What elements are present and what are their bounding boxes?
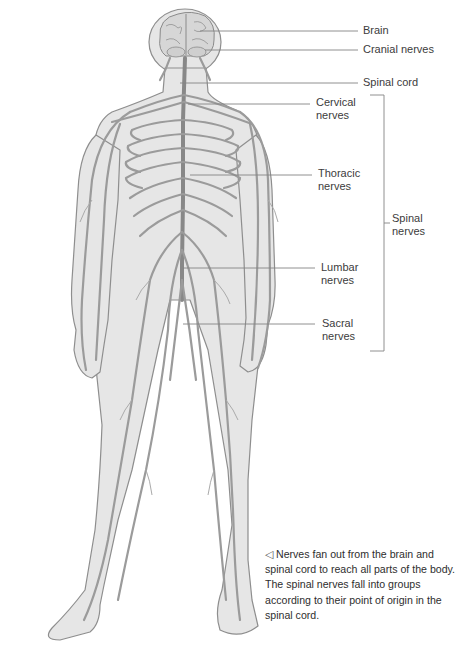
label-line2: nerves bbox=[321, 274, 358, 287]
label-line2: nerves bbox=[318, 180, 360, 193]
label-line2: nerves bbox=[322, 330, 355, 343]
label-lumbar-nerves: Lumbar nerves bbox=[321, 261, 358, 286]
caption-text: Nerves fan out from the brain and spinal… bbox=[265, 548, 455, 621]
label-thoracic-nerves: Thoracic nerves bbox=[318, 167, 360, 192]
figure-caption: ◁Nerves fan out from the brain and spina… bbox=[265, 547, 460, 623]
label-sacral-nerves: Sacral nerves bbox=[322, 317, 355, 342]
label-line1: Lumbar bbox=[321, 261, 358, 274]
label-cervical-nerves: Cervical nerves bbox=[316, 96, 356, 121]
label-cranial-nerves: Cranial nerves bbox=[363, 43, 434, 56]
pointer-left-icon: ◁ bbox=[265, 548, 273, 560]
label-spinal-cord: Spinal cord bbox=[363, 76, 418, 89]
label-brain: Brain bbox=[363, 24, 389, 37]
label-line1: Cervical bbox=[316, 96, 356, 109]
label-line1: Spinal bbox=[392, 212, 425, 225]
label-spinal-nerves: Spinal nerves bbox=[392, 212, 425, 237]
label-line1: Sacral bbox=[322, 317, 355, 330]
label-line2: nerves bbox=[392, 225, 425, 238]
label-line2: nerves bbox=[316, 109, 356, 122]
label-line1: Thoracic bbox=[318, 167, 360, 180]
